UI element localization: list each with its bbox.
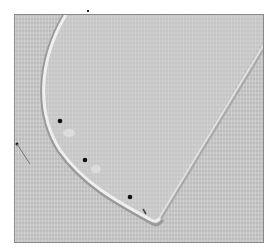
pin-head-icon [128,195,133,200]
pin-head-icon [58,119,63,124]
fabric-illustration [15,15,264,243]
fabric-photo [14,14,264,243]
pin-head-icon [83,158,88,163]
speck-mark [87,10,89,12]
